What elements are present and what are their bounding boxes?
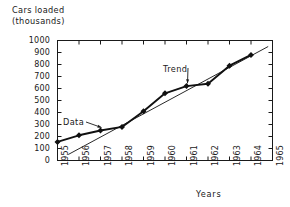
y-axis-tick-label: 300 xyxy=(18,120,50,129)
x-axis-title: Years xyxy=(196,189,222,199)
y-axis-tick-label: 400 xyxy=(18,108,50,117)
annotation-trend-label: Trend xyxy=(163,64,187,74)
x-axis-tick-label: 1957 xyxy=(104,144,113,165)
y-axis-tick-label: 900 xyxy=(18,48,50,57)
chart-figure: Cars loaded (thousands) Years 0100200300… xyxy=(0,0,290,207)
data-line xyxy=(58,55,252,142)
y-axis-tick-label: 700 xyxy=(18,72,50,81)
x-axis-tick-label: 1960 xyxy=(168,144,177,165)
y-axis-tick-label: 1000 xyxy=(18,36,50,45)
y-axis-tick-label: 500 xyxy=(18,96,50,105)
annotation-data-label: Data xyxy=(63,117,84,127)
y-axis-tick-label: 600 xyxy=(18,84,50,93)
y-axis-title-line2: (thousands) xyxy=(12,16,65,27)
x-axis-tick-label: 1958 xyxy=(125,144,134,165)
x-axis-tick-label: 1965 xyxy=(276,144,285,165)
y-axis-title-line1: Cars loaded xyxy=(12,5,65,16)
x-axis-tick-label: 1964 xyxy=(254,144,263,165)
y-axis-tick-label: 0 xyxy=(18,156,50,165)
data-markers xyxy=(56,53,254,144)
y-axis-tick-label: 800 xyxy=(18,60,50,69)
x-axis-tick-label: 1962 xyxy=(211,144,220,165)
trend-line xyxy=(68,47,268,155)
x-axis-tick-label: 1955 xyxy=(61,144,70,165)
y-axis-title: Cars loaded (thousands) xyxy=(12,5,65,27)
x-axis-tick-label: 1963 xyxy=(233,144,242,165)
x-axis-tick-label: 1959 xyxy=(147,144,156,165)
y-axis-tick-label: 100 xyxy=(18,144,50,153)
x-axis-tick-label: 1961 xyxy=(190,144,199,165)
x-axis-tick-label: 1956 xyxy=(82,144,91,165)
y-axis-tick-label: 200 xyxy=(18,132,50,141)
